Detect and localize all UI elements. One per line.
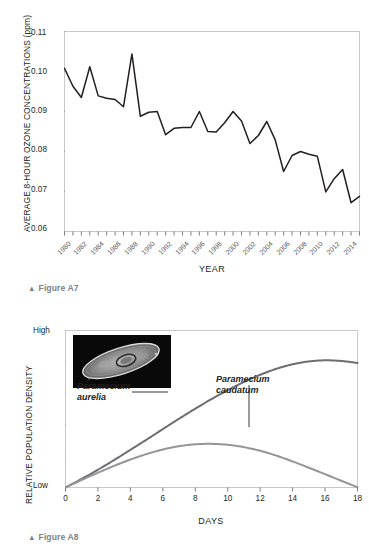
paramecium-x-axis-label: DAYS xyxy=(65,516,357,526)
ozone-plot-area xyxy=(64,31,364,237)
figure-a8: RELATIVE POPULATION DENSITY High Low xyxy=(0,318,369,553)
paramecium-x-tick-5: 10 xyxy=(216,494,240,503)
paramecium-x-tick-7: 14 xyxy=(281,494,305,503)
figure-a7: AVERAGE 8-HOUR OZONE CONCENTRATIONS (ppm… xyxy=(0,0,369,310)
figure-a7-caption-text: Figure A7 xyxy=(39,283,79,293)
paramecium-y-tick-high: High xyxy=(33,326,62,335)
ozone-y-tick-1: 0.10 xyxy=(31,67,61,76)
ozone-y-tick-0: 0.11 xyxy=(31,28,61,37)
ozone-x-axis-label: YEAR xyxy=(64,264,360,274)
figure-a8-caption-text: Figure A8 xyxy=(39,532,79,542)
ozone-y-tick-2: 0.09 xyxy=(31,106,61,115)
paramecium-x-tick-2: 4 xyxy=(118,494,142,503)
paramecium-x-tick-9: 18 xyxy=(346,494,369,503)
ozone-y-tick-5: 0.06 xyxy=(31,224,61,233)
paramecium-x-tick-3: 6 xyxy=(151,494,175,503)
paramecium-y-tick-low: Low xyxy=(33,481,62,490)
paramecium-x-tick-4: 8 xyxy=(183,494,207,503)
label-paramecium-aurelia: Paramecium aurelia xyxy=(77,381,131,402)
ozone-y-axis-label: AVERAGE 8-HOUR OZONE CONCENTRATIONS (ppm… xyxy=(22,15,32,232)
caption-triangle-icon: ▲ xyxy=(28,284,36,293)
ozone-y-tick-3: 0.08 xyxy=(31,145,61,154)
paramecium-x-tick-8: 16 xyxy=(313,494,337,503)
label-paramecium-caudatum: Paramecium caudatum xyxy=(216,374,270,395)
paramecium-x-tick-0: 0 xyxy=(54,494,78,503)
paramecium-x-tick-1: 2 xyxy=(86,494,110,503)
figure-a8-caption: ▲Figure A8 xyxy=(28,532,79,542)
caption-triangle-icon: ▲ xyxy=(28,533,36,542)
figure-a7-caption: ▲Figure A7 xyxy=(28,283,79,293)
ozone-y-tick-4: 0.07 xyxy=(31,185,61,194)
paramecium-x-tick-6: 12 xyxy=(248,494,272,503)
